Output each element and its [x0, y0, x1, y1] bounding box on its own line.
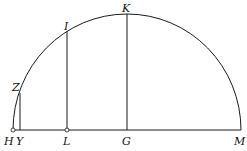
label-L: L [62, 135, 70, 148]
point-L-marker [65, 128, 69, 132]
label-G: G [122, 135, 131, 148]
label-Y: Y [16, 135, 25, 148]
label-M: M [233, 135, 246, 148]
semicircle-diagram: H Y L G M Z I K [0, 0, 247, 151]
label-K: K [121, 2, 131, 15]
point-H-marker [11, 128, 15, 132]
label-Z: Z [11, 81, 20, 94]
label-H: H [3, 135, 14, 148]
label-I: I [63, 20, 69, 33]
